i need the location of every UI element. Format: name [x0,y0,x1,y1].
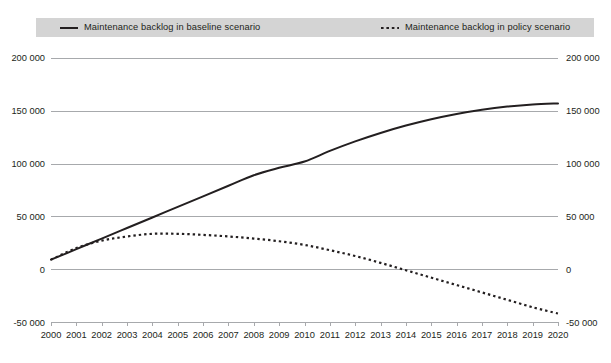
y-axis-left-tick-0: 0 [40,265,45,275]
legend-item-policy: Maintenance backlog in policy scenario [381,18,570,37]
maintenance-backlog-chart: Maintenance backlog in baseline scenario… [0,0,611,363]
plot-svg [51,58,558,322]
series-line-policy [51,234,558,314]
y-axis-left-tick-100000: 100 000 [11,159,45,169]
gridlines [51,59,558,323]
y-axis-left-tick-150000: 150 000 [11,106,45,116]
y-axis-right-tick-50000: 50 000 [566,212,594,222]
y-axis-right-tick-minus50000: -50 000 [566,318,598,328]
y-axis-right-tick-0: 0 [566,265,571,275]
dotted-line-icon [381,23,399,33]
y-axis-left-tick-50000: 50 000 [17,212,45,222]
x-axis-tick-marks [52,322,559,326]
x-axis-tick-2020: 2020 [541,330,575,340]
legend-item-baseline: Maintenance backlog in baseline scenario [60,18,260,37]
y-axis-right-tick-200000: 200 000 [566,53,600,63]
y-axis-left-tick-200000: 200 000 [11,53,45,63]
y-axis-right-tick-100000: 100 000 [566,159,600,169]
y-axis-left-tick-minus50000: -50 000 [13,318,45,328]
legend-label-policy: Maintenance backlog in policy scenario [405,22,570,33]
series-line-baseline [51,103,558,259]
y-axis-right-tick-150000: 150 000 [566,106,600,116]
solid-line-icon [60,23,78,33]
legend-label-baseline: Maintenance backlog in baseline scenario [84,22,260,33]
chart-legend: Maintenance backlog in baseline scenario… [36,18,594,37]
plot-area [51,58,558,322]
